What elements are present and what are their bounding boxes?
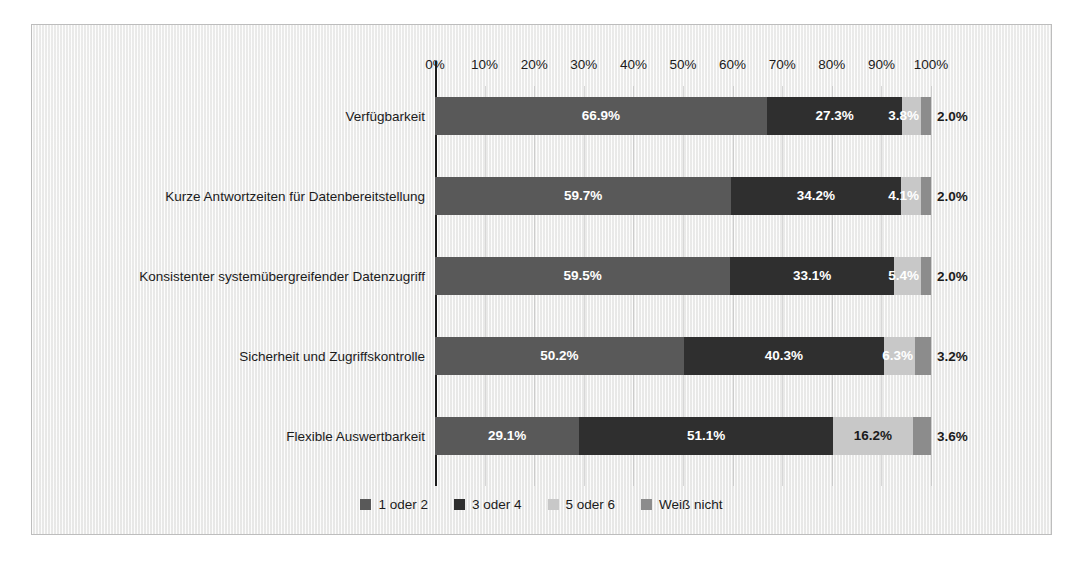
bar-segment[interactable]: 51.1% [579,417,832,455]
stacked-bar[interactable]: 59.7%34.2%4.1%2.0% [435,177,931,215]
category-label-wrap: Kurze Antwortzeiten für Datenbereitstell… [35,177,435,215]
bar-segment[interactable] [913,417,931,455]
bar-value-label: 2.0% [937,189,968,204]
chart-legend: 1 oder 23 oder 45 oder 6Weiß nicht [32,497,1051,512]
bar-value-label: 29.1% [488,429,526,443]
legend-swatch-icon [454,499,465,510]
stacked-bar[interactable]: 59.5%33.1%5.4%2.0% [435,257,931,295]
bar-value-label: 66.9% [582,109,620,123]
legend-item[interactable]: Weiß nicht [641,497,723,512]
bar-segment[interactable]: 59.5% [435,257,730,295]
bar-value-label: 33.1% [793,269,831,283]
category-label-wrap: Flexible Auswertbarkeit [35,417,435,455]
legend-item[interactable]: 1 oder 2 [360,497,428,512]
bar-segment[interactable] [921,257,931,295]
bar-value-label: 4.1% [888,189,919,203]
bar-value-label: 51.1% [687,429,725,443]
bar-segment[interactable] [915,337,931,375]
bar-segment[interactable]: 5.4% [894,257,921,295]
bar-segment[interactable]: 50.2% [435,337,684,375]
bar-segment[interactable]: 27.3% [767,97,902,135]
legend-item[interactable]: 5 oder 6 [548,497,616,512]
category-label: Konsistenter systemübergreifender Datenz… [139,269,425,284]
bar-value-label: 6.3% [882,349,913,363]
chart-frame: 0%10%20%30%40%50%60%70%80%90%100% Verfüg… [31,24,1052,535]
bar-segment[interactable]: 34.2% [731,177,901,215]
chart-row: Kurze Antwortzeiten für Datenbereitstell… [435,177,931,215]
x-tick-label: 30% [570,57,597,72]
category-label-wrap: Verfügbarkeit [35,97,435,135]
gridline [931,86,932,486]
chart-row: Sicherheit und Zugriffskontrolle50.2%40.… [435,337,931,375]
chart-row: Flexible Auswertbarkeit29.1%51.1%16.2%3.… [435,417,931,455]
stacked-bar[interactable]: 50.2%40.3%6.3%3.2% [435,337,931,375]
x-tick-label: 10% [471,57,498,72]
bar-value-label: 27.3% [815,109,853,123]
bar-value-label: 5.4% [888,269,919,283]
category-label: Flexible Auswertbarkeit [286,429,425,444]
legend-swatch-icon [360,499,371,510]
bar-segment[interactable]: 4.1% [901,177,921,215]
legend-label: 5 oder 6 [566,497,616,512]
bar-value-label: 3.8% [888,109,919,123]
category-label: Kurze Antwortzeiten für Datenbereitstell… [165,189,425,204]
x-tick-label: 100% [914,57,949,72]
stacked-bar[interactable]: 29.1%51.1%16.2%3.6% [435,417,931,455]
bar-segment[interactable] [921,177,931,215]
bar-value-label: 2.0% [937,109,968,124]
bar-value-label: 40.3% [765,349,803,363]
category-label-wrap: Konsistenter systemübergreifender Datenz… [35,257,435,295]
chart-row: Konsistenter systemübergreifender Datenz… [435,257,931,295]
x-tick-label: 40% [620,57,647,72]
bar-value-label: 34.2% [797,189,835,203]
bar-value-label: 3.2% [937,349,968,364]
plot-area: Verfügbarkeit66.9%27.3%3.8%2.0%Kurze Ant… [435,86,931,486]
x-tick-label: 90% [868,57,895,72]
x-tick-label: 50% [669,57,696,72]
x-tick-label: 60% [719,57,746,72]
x-tick-label: 80% [818,57,845,72]
bar-value-label: 3.6% [937,429,968,444]
bar-segment[interactable]: 66.9% [435,97,767,135]
x-tick-label: 20% [521,57,548,72]
bar-value-label: 50.2% [540,349,578,363]
bar-segment[interactable]: 33.1% [730,257,894,295]
legend-label: Weiß nicht [659,497,723,512]
x-tick-label: 70% [769,57,796,72]
bar-segment[interactable]: 40.3% [684,337,884,375]
x-axis-tick-labels: 0%10%20%30%40%50%60%70%80%90%100% [435,57,931,77]
stacked-bar[interactable]: 66.9%27.3%3.8%2.0% [435,97,931,135]
bar-segment[interactable] [921,97,931,135]
bar-segment[interactable]: 29.1% [435,417,579,455]
bar-value-label: 59.7% [564,189,602,203]
chart-row: Verfügbarkeit66.9%27.3%3.8%2.0% [435,97,931,135]
legend-swatch-icon [641,499,652,510]
category-label-wrap: Sicherheit und Zugriffskontrolle [35,337,435,375]
bar-value-label: 2.0% [937,269,968,284]
bar-segment[interactable]: 3.8% [902,97,921,135]
bar-value-label: 16.2% [854,429,892,443]
legend-label: 3 oder 4 [472,497,522,512]
bar-segment[interactable]: 6.3% [884,337,915,375]
legend-label: 1 oder 2 [378,497,428,512]
legend-item[interactable]: 3 oder 4 [454,497,522,512]
bar-segment[interactable]: 16.2% [833,417,913,455]
bar-segment[interactable]: 59.7% [435,177,731,215]
category-label: Verfügbarkeit [345,109,425,124]
bar-value-label: 59.5% [563,269,601,283]
category-label: Sicherheit und Zugriffskontrolle [239,349,425,364]
legend-swatch-icon [548,499,559,510]
